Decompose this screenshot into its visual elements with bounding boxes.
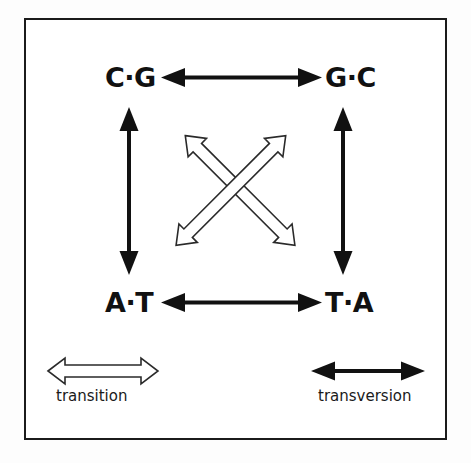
node-label-ta: T·A	[325, 289, 373, 316]
arrow-at-ta-transversion	[161, 293, 322, 312]
arrow-gc-ta-transversion	[334, 107, 353, 275]
legend-label-transversion: transversion	[318, 389, 412, 404]
figure-canvas: C·G G·C A·T T·A transition transversion	[0, 0, 471, 463]
node-label-at: A·T	[105, 289, 153, 316]
node-label-cg: C·G	[105, 64, 156, 91]
legend-transition-arrow	[48, 358, 158, 384]
arrow-cg-gc-transversion	[161, 68, 322, 87]
legend-label-transition: transition	[56, 389, 127, 404]
arrow-cg-at-transversion	[120, 107, 139, 275]
node-label-gc: G·C	[325, 64, 376, 91]
legend-transversion-arrow	[311, 362, 425, 381]
